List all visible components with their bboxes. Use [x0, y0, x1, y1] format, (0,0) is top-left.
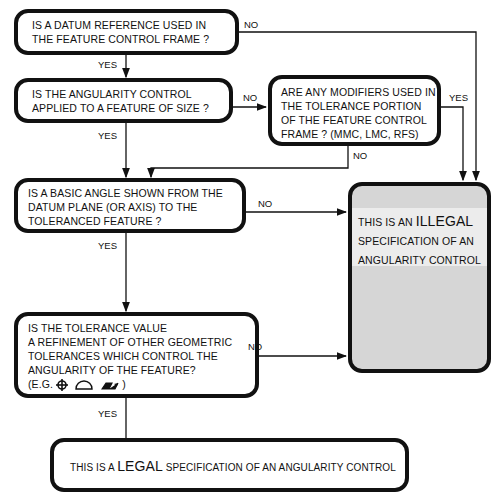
- edge-label-q4-no: NO: [258, 198, 272, 209]
- decision-text-line: THE TOLERANCE PORTION: [281, 99, 436, 113]
- edge-label-q2-no: NO: [243, 92, 257, 103]
- decision-text-line: A REFINEMENT OF OTHER GEOMETRIC: [28, 335, 232, 349]
- decision-text-line: FRAME ? (MMC, LMC, RFS): [281, 127, 436, 141]
- result-emphasis: LEGAL: [117, 458, 163, 474]
- total-runout-icon: [101, 380, 119, 390]
- decision-text-line: OF THE FEATURE CONTROL: [281, 113, 436, 127]
- result-illegal: THIS IS AN ILLEGAL SPECIFICATION OF AN A…: [348, 182, 491, 373]
- decision-text-line: ARE ANY MODIFIERS USED IN: [281, 85, 436, 99]
- example-suffix: ): [122, 378, 126, 390]
- edge-label-q2-yes: YES: [98, 130, 117, 141]
- edge-label-q3-yes: YES: [449, 92, 468, 103]
- profile-of-surface-icon: [75, 380, 93, 390]
- edge-label-q1-no: NO: [244, 19, 258, 30]
- decision-text-line: IS THE TOLERANCE VALUE: [28, 321, 232, 335]
- decision-text-line: THE FEATURE CONTROL FRAME ?: [32, 32, 209, 46]
- result-text-line: SPECIFICATION OF AN: [358, 232, 481, 251]
- result-text-line: ANGULARITY CONTROL: [358, 251, 481, 270]
- result-legal: THIS IS A LEGAL SPECIFICATION OF AN ANGU…: [50, 438, 409, 492]
- decision-basic-angle: IS A BASIC ANGLE SHOWN FROM THE DATUM PL…: [14, 178, 246, 233]
- edge-label-q1-yes: YES: [98, 59, 117, 70]
- decision-text-line: TOLERANCED FEATURE ?: [28, 214, 223, 228]
- result-suffix: SPECIFICATION OF AN ANGULARITY CONTROL: [166, 462, 396, 473]
- decision-text-line: DATUM PLANE (OR AXIS) TO THE: [28, 200, 223, 214]
- decision-text-line: ANGULARITY OF THE FEATURE?: [28, 363, 232, 377]
- edge-label-q4-yes: YES: [98, 240, 117, 251]
- result-prefix: THIS IS AN: [358, 216, 413, 228]
- decision-text-line: APPLIED TO A FEATURE OF SIZE ?: [32, 101, 209, 115]
- edge-label-q3-no: NO: [353, 150, 367, 161]
- example-line: (E.G. ): [28, 377, 232, 391]
- result-emphasis: ILLEGAL: [416, 213, 474, 229]
- decision-datum-reference: IS A DATUM REFERENCE USED IN THE FEATURE…: [14, 9, 239, 55]
- edge-label-q5-yes: YES: [98, 408, 117, 419]
- result-text-line: THIS IS AN ILLEGAL: [358, 212, 481, 232]
- decision-tolerance-refinement: IS THE TOLERANCE VALUE A REFINEMENT OF O…: [14, 312, 259, 398]
- decision-feature-of-size: IS THE ANGULARITY CONTROL APPLIED TO A F…: [14, 78, 233, 123]
- decision-text-line: IS THE ANGULARITY CONTROL: [32, 87, 209, 101]
- decision-text-line: IS A BASIC ANGLE SHOWN FROM THE: [28, 186, 223, 200]
- decision-text-line: IS A DATUM REFERENCE USED IN: [32, 18, 209, 32]
- example-prefix: (E.G.: [28, 378, 53, 390]
- decision-modifiers-used: ARE ANY MODIFIERS USED IN THE TOLERANCE …: [268, 75, 441, 146]
- decision-text-line: TOLERANCES WHICH CONTROL THE: [28, 349, 232, 363]
- result-prefix: THIS IS A: [70, 462, 114, 473]
- edge-label-q5-no: NO: [248, 341, 262, 352]
- position-icon: [56, 379, 68, 391]
